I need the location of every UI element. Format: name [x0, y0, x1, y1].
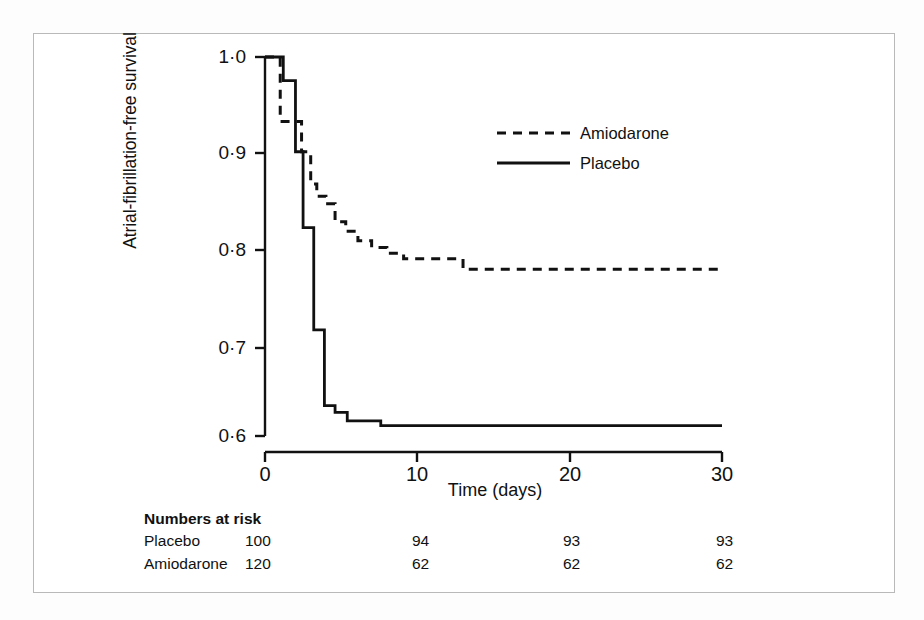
y-tick-label-0p8: 0·8 — [186, 239, 246, 261]
y-axis-title-wrap: Atrial-fibrillation-free survival — [120, 0, 141, 291]
risk-value-placebo-day30: 93 — [716, 532, 733, 550]
y-tick-label-0p6: 0·6 — [186, 425, 246, 447]
y-tick-label-0p9: 0·9 — [186, 142, 246, 164]
x-tick-label-30: 30 — [692, 463, 752, 486]
numbers-at-risk-title: Numbers at risk — [144, 510, 261, 528]
risk-value-placebo-day0: 100 — [245, 532, 271, 550]
y-axis-title: Atrial-fibrillation-free survival — [120, 32, 140, 248]
risk-value-amiodarone-day10: 62 — [412, 555, 429, 573]
risk-value-amiodarone-day30: 62 — [716, 555, 733, 573]
kaplan-meier-figure: 1·0 0·9 0·8 0·7 0·6 Atrial-fibrillation-… — [0, 0, 924, 620]
x-tick-label-0: 0 — [235, 463, 295, 486]
figure-page: 1·0 0·9 0·8 0·7 0·6 Atrial-fibrillation-… — [0, 0, 924, 620]
risk-value-placebo-day20: 93 — [563, 532, 580, 550]
legend-label-amiodarone: Amiodarone — [580, 124, 669, 143]
risk-value-placebo-day10: 94 — [412, 532, 429, 550]
y-tick-label-0p7: 0·7 — [186, 337, 246, 359]
risk-value-amiodarone-day20: 62 — [563, 555, 580, 573]
y-tick-label-1p0: 1·0 — [186, 46, 246, 68]
curve-placebo — [265, 57, 722, 426]
x-axis-title: Time (days) — [330, 480, 660, 501]
risk-value-amiodarone-day0: 120 — [245, 555, 271, 573]
risk-row-label-amiodarone: Amiodarone — [144, 555, 228, 573]
legend-label-placebo: Placebo — [580, 154, 640, 173]
risk-row-label-placebo: Placebo — [144, 532, 200, 550]
curve-amiodarone — [265, 57, 722, 269]
